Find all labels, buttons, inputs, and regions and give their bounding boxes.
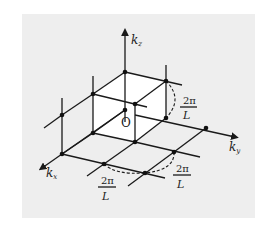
spacing-fraction-ky: 2π L bbox=[173, 163, 191, 191]
origin-label: O bbox=[121, 116, 131, 130]
svg-text:L: L bbox=[176, 178, 184, 191]
k-space-lattice-diagram: kz ky kx O 2π L 2π L 2π L bbox=[0, 0, 275, 235]
spacing-arc-vertical bbox=[166, 81, 175, 118]
ky-label: ky bbox=[229, 140, 241, 155]
spacing-fraction-vertical: 2π L bbox=[180, 95, 197, 122]
svg-text:L: L bbox=[101, 190, 109, 203]
svg-text:2π: 2π bbox=[101, 175, 114, 186]
kz-label: kz bbox=[131, 33, 142, 48]
kx-label: kx bbox=[46, 166, 57, 181]
svg-text:2π: 2π bbox=[176, 163, 189, 174]
spacing-fraction-kx: 2π L bbox=[98, 175, 116, 203]
svg-text:L: L bbox=[182, 109, 190, 122]
svg-text:2π: 2π bbox=[183, 95, 196, 106]
